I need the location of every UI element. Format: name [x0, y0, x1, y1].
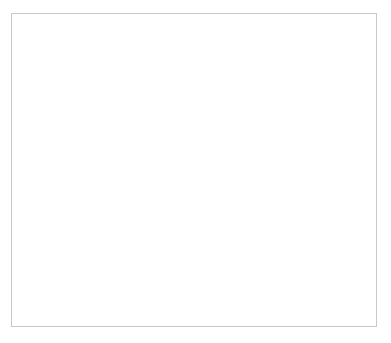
figure-outer-frame — [11, 13, 377, 327]
figure-container: 1020304050 0.00.20.40.60.81.0 Sample Siz… — [0, 0, 391, 343]
